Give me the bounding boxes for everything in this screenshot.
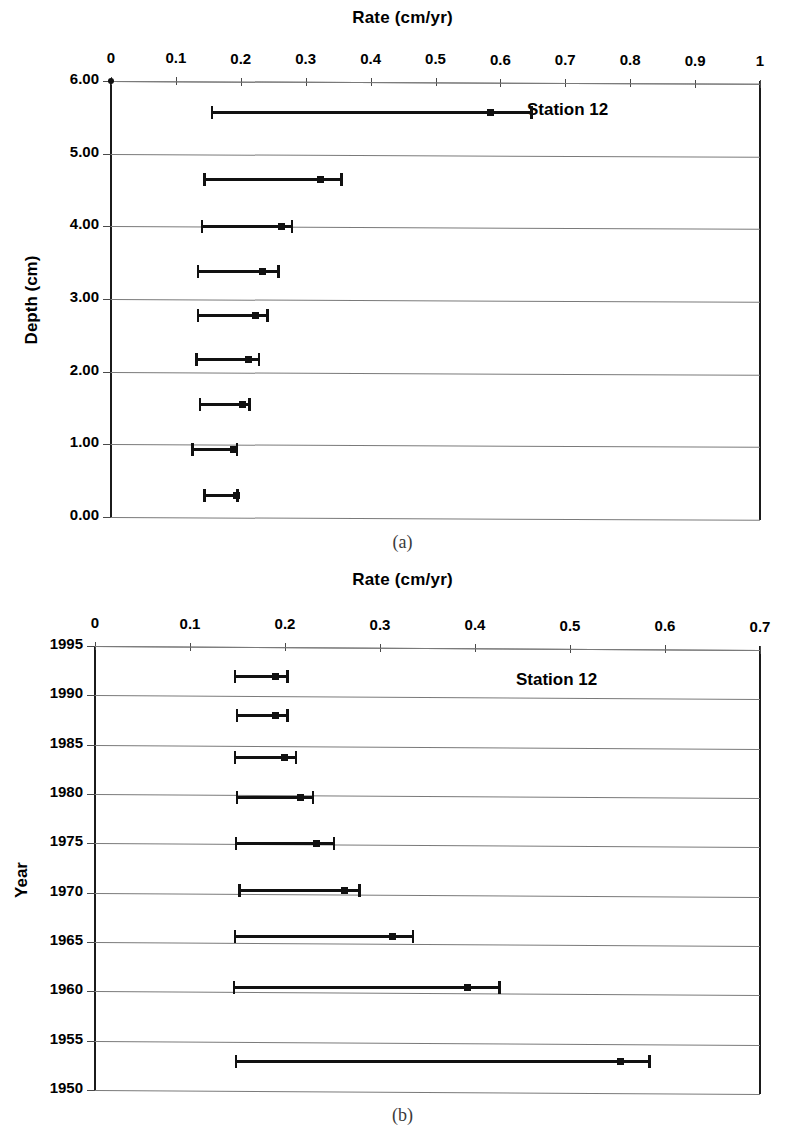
y-tick-label: 1960 <box>3 980 83 997</box>
error-bar-cap-low <box>238 884 241 897</box>
panel-a-x-axis-title: Rate (cm/yr) <box>0 8 805 28</box>
error-bar-cap-low <box>197 309 200 322</box>
x-tick-label: 0.2 <box>255 615 315 632</box>
x-tick-label: 0.5 <box>540 617 600 634</box>
error-bar-cap-low <box>201 220 204 233</box>
data-point-marker <box>464 984 471 991</box>
x-tick-label: 0.3 <box>276 50 336 67</box>
y-tick-label: 0.00 <box>19 506 99 523</box>
data-point-marker <box>278 223 285 230</box>
x-tick-label: 0.9 <box>665 52 725 69</box>
error-bar-cap-low <box>211 106 214 119</box>
x-tick-0_7 <box>760 646 761 654</box>
data-point-marker <box>389 933 396 940</box>
error-bar-cap-high <box>286 670 289 683</box>
error-bar-cap-high <box>530 106 533 119</box>
error-bar-line <box>235 1060 651 1063</box>
error-bar-cap-high <box>648 1055 651 1068</box>
chart-panel-b: Rate (cm/yr) Year Station 12 (b) 00.10.2… <box>0 560 805 1127</box>
data-point-marker <box>617 1058 624 1065</box>
error-bar-cap-low <box>203 489 206 502</box>
y-tick-1985 <box>87 745 95 746</box>
x-tick-label: 0 <box>81 49 141 66</box>
data-point-marker <box>245 356 252 363</box>
error-bar-point <box>236 789 315 807</box>
y-tick-label: 1995 <box>3 635 83 652</box>
y-tick-1995 <box>87 646 95 647</box>
error-bar-cap-high <box>258 353 261 366</box>
error-bar-cap-low <box>203 173 206 186</box>
chart-panel-a: Rate (cm/yr) Depth (cm) Station 12 (a) 0… <box>0 0 805 565</box>
y-tick-label: 1.00 <box>19 433 99 450</box>
x-tick-label: 0.5 <box>406 50 466 67</box>
error-bar-cap-low <box>199 398 202 411</box>
origin-marker <box>108 78 114 84</box>
error-bar-point <box>235 834 336 852</box>
panel-a-caption: (a) <box>0 532 805 553</box>
y-tick-label: 3.00 <box>19 288 99 305</box>
error-bar-line <box>236 714 289 717</box>
x-tick-label: 0.6 <box>635 617 695 634</box>
y-tick-label: 1970 <box>3 882 83 899</box>
error-bar-cap-high <box>333 837 336 850</box>
error-bar-point <box>201 218 294 236</box>
x-tick-label: 0.1 <box>146 49 206 66</box>
data-point-marker <box>272 673 279 680</box>
data-point-marker <box>233 492 240 499</box>
y-axis-line <box>94 646 96 1090</box>
error-bar-line <box>235 842 336 845</box>
x-tick-label: 0.7 <box>730 618 790 635</box>
error-bar-cap-high <box>295 751 298 764</box>
x-tick-label: 0.3 <box>350 616 410 633</box>
y-tick-label: 1950 <box>3 1079 83 1096</box>
y-tick-1990 <box>87 695 95 696</box>
error-bar-cap-high <box>358 884 361 897</box>
x-tick-1 <box>760 80 761 88</box>
figure-container: Rate (cm/yr) Depth (cm) Station 12 (a) 0… <box>0 0 805 1127</box>
y-tick-label: 1985 <box>3 734 83 751</box>
data-point-marker <box>239 401 246 408</box>
x-tick-label: 0.4 <box>341 50 401 67</box>
x-tick-label: 0.2 <box>211 50 271 67</box>
error-bar-cap-high <box>498 981 501 994</box>
error-bar-cap-high <box>312 791 315 804</box>
error-bar-point <box>191 441 238 459</box>
y-tick-label: 5.00 <box>19 143 99 160</box>
error-bar-cap-low <box>233 981 236 994</box>
y-tick-label: 1965 <box>3 931 83 948</box>
y-tick-0 <box>103 517 111 518</box>
error-bar-cap-high <box>277 265 280 278</box>
error-bar-line <box>197 270 280 273</box>
data-point-marker <box>259 268 266 275</box>
y-tick-label: 1955 <box>3 1030 83 1047</box>
y-tick-1960 <box>87 991 95 992</box>
y-tick-2 <box>103 372 111 373</box>
x-tick-label: 0.4 <box>445 616 505 633</box>
error-bar-point <box>203 487 239 505</box>
y-tick-1970 <box>87 893 95 894</box>
x-tick-label: 0.8 <box>600 51 660 68</box>
y-tick-1980 <box>87 794 95 795</box>
y-tick-1955 <box>87 1041 95 1042</box>
error-bar-cap-high <box>286 709 289 722</box>
error-bar-cap-low <box>235 1055 238 1068</box>
error-bar-line <box>234 675 289 678</box>
y-tick-label: 4.00 <box>19 215 99 232</box>
error-bar-point <box>238 882 361 900</box>
data-point-marker <box>341 887 348 894</box>
error-bar-cap-low <box>195 353 198 366</box>
error-bar-line <box>234 935 415 938</box>
error-bar-point <box>211 104 533 122</box>
error-bar-cap-high <box>291 220 294 233</box>
error-bar-point <box>236 707 289 725</box>
x-tick-label: 0.7 <box>535 51 595 68</box>
error-bar-cap-low <box>235 837 238 850</box>
error-bar-cap-high <box>248 398 251 411</box>
error-bar-cap-low <box>236 791 239 804</box>
error-bar-cap-low <box>234 751 237 764</box>
error-bar-point <box>234 667 289 685</box>
data-point-marker <box>230 446 237 453</box>
y-tick-label: 1990 <box>3 684 83 701</box>
error-bar-point <box>234 928 415 946</box>
data-point-marker <box>297 794 304 801</box>
